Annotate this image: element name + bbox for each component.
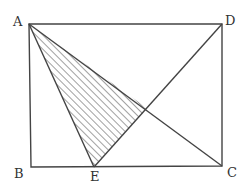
label-B: B [14, 166, 24, 181]
segment-AC [29, 24, 222, 166]
label-E: E [90, 169, 100, 184]
shaded-triangle-AEF [29, 24, 147, 167]
geometry-diagram: A D B E C [0, 0, 251, 190]
label-D: D [225, 13, 235, 28]
label-A: A [12, 14, 23, 29]
label-C: C [227, 165, 237, 180]
